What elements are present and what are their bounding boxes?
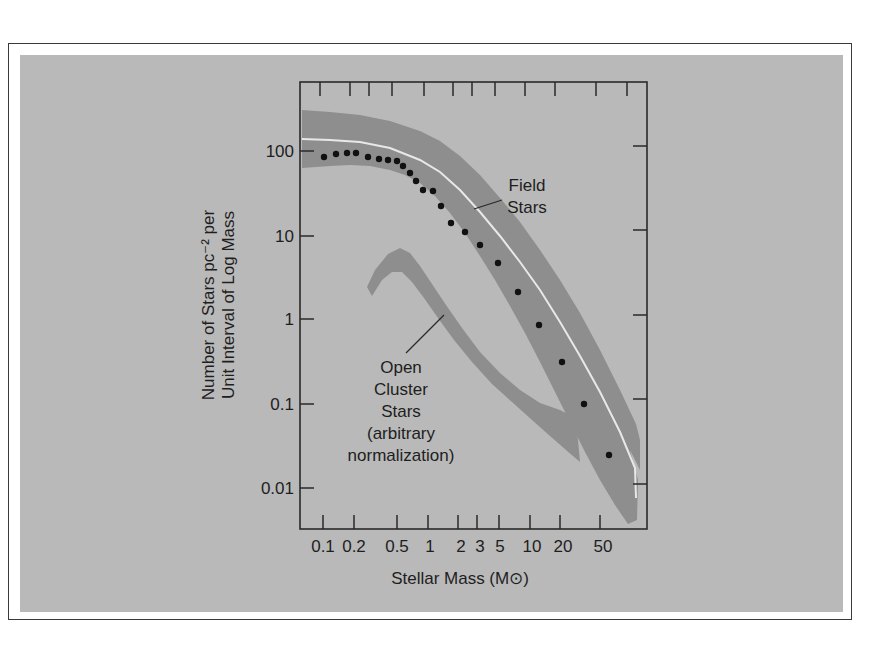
open-cluster-label-line4: (arbitrary bbox=[367, 424, 436, 443]
x-tick-label: 5 bbox=[495, 537, 504, 556]
x-tick-label: 1 bbox=[425, 537, 434, 556]
x-tick-label: 0.5 bbox=[385, 537, 409, 556]
x-tick-label: 0.2 bbox=[342, 537, 366, 556]
y-tick-label: 0.01 bbox=[261, 479, 294, 498]
field-stars-label-line2: Stars bbox=[507, 198, 547, 217]
open-cluster-label-line3: Stars bbox=[381, 402, 421, 421]
open-cluster-leader-line bbox=[406, 315, 444, 353]
x-tick-label: 2 bbox=[456, 537, 465, 556]
x-tick-label: 0.1 bbox=[311, 537, 335, 556]
y-axis-title-line1: Number of Stars pc⁻² per bbox=[199, 209, 218, 400]
open-cluster-label-line5: normalization) bbox=[348, 446, 455, 465]
x-tick-label: 10 bbox=[523, 537, 542, 556]
field-stars-label-line1: Field bbox=[509, 176, 546, 195]
x-tick-label: 20 bbox=[554, 537, 573, 556]
y-axis-title-line2: Unit Interval of Log Mass bbox=[219, 211, 238, 399]
x-tick-label: 3 bbox=[475, 537, 484, 556]
y-tick-label: 100 bbox=[266, 142, 294, 161]
imf-chart: 100 10 1 0.1 0.01 0.1 0.2 0.5 1 2 3 5 10… bbox=[0, 0, 886, 659]
open-cluster-label-line2: Cluster bbox=[374, 380, 428, 399]
open-cluster-label-line1: Open bbox=[380, 358, 422, 377]
y-tick-label: 0.1 bbox=[270, 395, 294, 414]
x-tick-label: 50 bbox=[594, 537, 613, 556]
y-tick-label: 10 bbox=[275, 227, 294, 246]
x-axis-title: Stellar Mass (M⊙) bbox=[391, 569, 529, 588]
y-tick-label: 1 bbox=[285, 310, 294, 329]
